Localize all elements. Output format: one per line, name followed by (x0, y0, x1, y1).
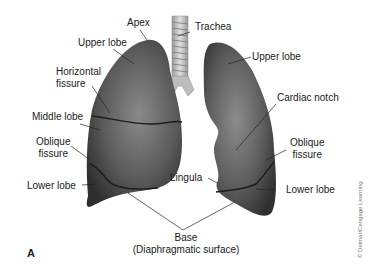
label-cardiac-notch: Cardiac notch (277, 92, 339, 104)
label-lingula: Lingula (170, 172, 202, 184)
label-oblique-fissure-right-line1: Oblique (36, 136, 70, 148)
label-oblique-fissure-right: Oblique fissure (36, 136, 70, 160)
label-trachea: Trachea (195, 21, 231, 33)
label-base-line2: (Diaphragmatic surface) (126, 244, 246, 256)
label-middle-lobe: Middle lobe (32, 111, 83, 123)
label-oblique-fissure-right-line2: fissure (36, 148, 70, 160)
label-oblique-fissure-left-line1: Oblique (290, 137, 324, 149)
label-horizontal-fissure-line2: fissure (56, 78, 101, 90)
panel-label: A (27, 247, 35, 259)
label-base: Base (Diaphragmatic surface) (126, 232, 246, 256)
label-oblique-fissure-left-line2: fissure (290, 149, 324, 161)
label-lower-lobe-left: Lower lobe (286, 184, 335, 196)
label-lower-lobe-right: Lower lobe (27, 180, 76, 192)
label-horizontal-fissure: Horizontal fissure (56, 66, 101, 90)
label-base-line1: Base (126, 232, 246, 244)
label-upper-lobe-right: Upper lobe (78, 37, 127, 49)
label-oblique-fissure-left: Oblique fissure (290, 137, 324, 161)
label-horizontal-fissure-line1: Horizontal (56, 66, 101, 78)
copyright-notice: © Delmar/Cengage Learning (357, 182, 363, 258)
right-lung (87, 40, 182, 207)
label-apex: Apex (127, 17, 150, 29)
label-upper-lobe-left: Upper lobe (252, 51, 301, 63)
